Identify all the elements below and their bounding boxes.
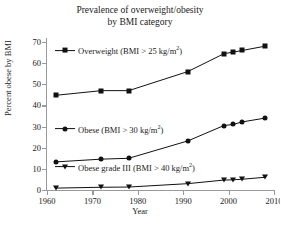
data-point-triangle bbox=[126, 185, 132, 190]
data-point-triangle bbox=[185, 181, 191, 186]
chart-figure: Prevalence of overweight/obesity by BMI … bbox=[0, 0, 280, 230]
plot-area: 010203040506070 196019701980199020002010… bbox=[47, 42, 274, 190]
data-point-triangle bbox=[221, 178, 227, 183]
y-tick-label-0: 0 bbox=[37, 186, 41, 195]
x-tick-label-2000: 2000 bbox=[220, 197, 237, 206]
y-tick-label-70: 70 bbox=[33, 38, 42, 47]
data-point-square bbox=[54, 93, 59, 98]
legend-key-triangle-icon bbox=[55, 163, 75, 170]
legend-label-1: Obese (BMI > 30 kg/m2) bbox=[78, 123, 163, 135]
x-tick bbox=[274, 190, 275, 195]
data-point-square bbox=[126, 88, 131, 93]
legend-label-0: Overweight (BMI > 25 kg/m2) bbox=[78, 45, 182, 57]
data-point-triangle bbox=[230, 177, 236, 182]
data-point-triangle bbox=[98, 185, 104, 190]
x-tick bbox=[92, 190, 93, 195]
y-tick-label-20: 20 bbox=[33, 143, 42, 152]
x-tick bbox=[229, 190, 230, 195]
x-tick-label-1980: 1980 bbox=[129, 197, 146, 206]
legend-label-2: Obese grade III (BMI > 40 kg/m2) bbox=[78, 161, 195, 173]
data-point-square bbox=[185, 69, 190, 74]
data-point-triangle bbox=[239, 177, 245, 182]
data-point-circle bbox=[185, 138, 190, 143]
data-point-square bbox=[222, 51, 227, 56]
x-tick-label-1970: 1970 bbox=[84, 197, 101, 206]
x-axis-title: Year bbox=[0, 206, 280, 216]
y-tick-label-10: 10 bbox=[33, 165, 42, 174]
data-point-triangle bbox=[262, 175, 268, 180]
y-tick-label-40: 40 bbox=[33, 101, 42, 110]
x-tick-label-1960: 1960 bbox=[39, 197, 56, 206]
data-point-circle bbox=[262, 116, 267, 121]
legend-entry-0: Overweight (BMI > 25 kg/m2) bbox=[55, 45, 182, 57]
chart-title-line-1: Prevalence of overweight/obesity bbox=[0, 4, 280, 16]
x-tick-label-2010: 2010 bbox=[266, 197, 281, 206]
x-tick bbox=[183, 190, 184, 195]
data-point-square bbox=[231, 50, 236, 55]
y-tick-label-50: 50 bbox=[33, 80, 42, 89]
legend-key-square-icon bbox=[55, 47, 75, 54]
x-tick bbox=[138, 190, 139, 195]
chart-title-line-2: by BMI category bbox=[0, 16, 280, 28]
data-point-circle bbox=[231, 122, 236, 127]
x-tick bbox=[47, 190, 48, 195]
data-point-square bbox=[99, 88, 104, 93]
data-point-circle bbox=[222, 123, 227, 128]
x-tick-label-1990: 1990 bbox=[175, 197, 192, 206]
chart-title: Prevalence of overweight/obesity by BMI … bbox=[0, 4, 280, 28]
data-point-circle bbox=[240, 119, 245, 124]
y-tick-label-60: 60 bbox=[33, 59, 42, 68]
y-axis-title: Percent obese by BMI bbox=[3, 40, 13, 116]
legend-key-circle-icon bbox=[55, 125, 75, 132]
legend-entry-1: Obese (BMI > 30 kg/m2) bbox=[55, 123, 163, 135]
data-point-triangle bbox=[53, 186, 59, 191]
data-point-square bbox=[262, 44, 267, 49]
y-tick-label-30: 30 bbox=[33, 122, 42, 131]
data-point-square bbox=[240, 48, 245, 53]
legend-entry-2: Obese grade III (BMI > 40 kg/m2) bbox=[55, 161, 195, 173]
x-axis-line bbox=[46, 190, 275, 191]
